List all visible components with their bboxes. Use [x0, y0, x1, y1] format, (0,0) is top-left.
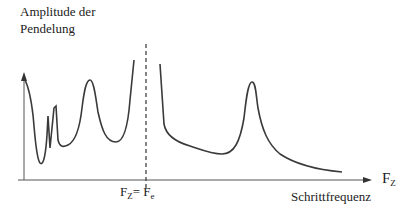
resonance-label: FZ= Fe [120, 184, 155, 201]
x-axis-symbol: FZ [382, 170, 396, 188]
x-axis-label: Schrittfrequenz [291, 189, 371, 205]
marker-right-sub: e [151, 191, 155, 201]
marker-right-main: F [143, 184, 150, 199]
x-axis-symbol-sub: Z [390, 178, 396, 188]
resonance-diagram [0, 0, 406, 214]
amplitude-curve-left [25, 60, 134, 164]
y-axis-arrow-icon [21, 72, 27, 81]
amplitude-curve-right [160, 64, 342, 172]
marker-eq: = [133, 184, 140, 199]
x-axis-arrow-icon [363, 177, 372, 183]
